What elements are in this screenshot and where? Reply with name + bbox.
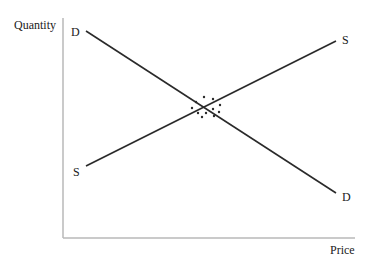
supply-curve <box>86 41 336 166</box>
supply-end-label: S <box>342 33 349 47</box>
demand-curve <box>86 31 336 193</box>
supply-demand-diagram <box>0 0 372 258</box>
x-axis-label: Price <box>330 243 355 257</box>
supply-start-label: S <box>73 165 80 179</box>
y-axis-label: Quantity <box>14 18 56 32</box>
demand-end-label: D <box>342 190 351 204</box>
demand-start-label: D <box>71 25 80 39</box>
